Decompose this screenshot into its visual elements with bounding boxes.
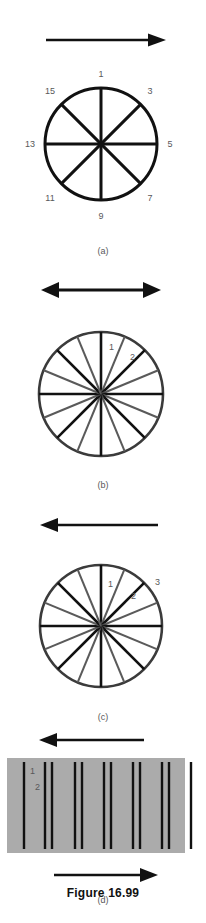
panel-a-label-1: 1 bbox=[98, 69, 103, 79]
panel-b: 1 2 (b) bbox=[0, 265, 206, 497]
panel-a-label-5: 5 bbox=[167, 139, 172, 149]
panel-c-caption: (c) bbox=[0, 712, 206, 722]
panel-c-arrow-left-icon bbox=[40, 518, 158, 532]
panel-a: 1 3 5 7 9 11 13 15 (a) bbox=[0, 0, 206, 265]
panel-c-label-1: 1 bbox=[108, 579, 113, 589]
panel-a-label-7: 7 bbox=[147, 193, 152, 203]
figure-16-99: 1 3 5 7 9 11 13 15 (a) bbox=[0, 0, 206, 923]
panel-a-label-9: 9 bbox=[98, 211, 103, 221]
panel-b-diagram: 1 2 bbox=[0, 265, 206, 497]
panel-c-label-2: 2 bbox=[131, 591, 136, 601]
figure-title: Figure 16.99 bbox=[0, 886, 206, 900]
panel-c-diagram: 1 2 3 bbox=[0, 497, 206, 729]
panel-d-label-2: 2 bbox=[35, 782, 40, 792]
panel-d-arrow-top-left-icon bbox=[39, 733, 144, 747]
panel-c: 1 2 3 (c) bbox=[0, 497, 206, 729]
panel-d-label-1: 1 bbox=[30, 766, 35, 776]
panel-a-label-3: 3 bbox=[147, 86, 152, 96]
panel-a-diagram: 1 3 5 7 9 11 13 15 bbox=[0, 0, 206, 265]
panel-a-arrow-right-icon bbox=[46, 34, 166, 47]
panel-b-caption: (b) bbox=[0, 480, 206, 490]
panel-b-label-2: 2 bbox=[130, 352, 135, 362]
panel-b-arrow-both-icon bbox=[41, 282, 161, 298]
panel-a-caption: (a) bbox=[0, 246, 206, 256]
panel-b-spokes bbox=[39, 332, 163, 456]
panel-d-arrow-bottom-right-icon bbox=[54, 868, 158, 882]
panel-a-label-15: 15 bbox=[45, 86, 55, 96]
panel-c-spokes bbox=[40, 565, 162, 687]
panel-a-label-11: 11 bbox=[45, 193, 54, 203]
panel-b-label-1: 1 bbox=[109, 342, 114, 352]
panel-c-label-3: 3 bbox=[155, 577, 160, 587]
panel-a-spokes bbox=[45, 88, 157, 200]
panel-a-label-13: 13 bbox=[25, 139, 35, 149]
